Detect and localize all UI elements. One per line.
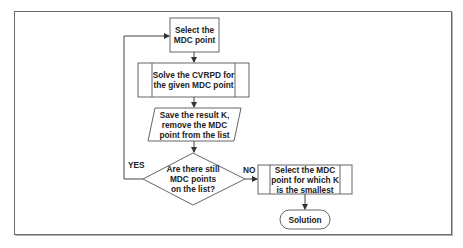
no-edge-label: NO — [243, 165, 255, 175]
yes-edge-label: YES — [128, 160, 145, 170]
decision-label: Are there still MDC points on the list? — [158, 162, 228, 196]
select-mdc-label: Select the MDC point — [170, 18, 219, 52]
select-smallest-label: Select the MDC point for which K is the … — [270, 165, 340, 194]
solution-label: Solution — [280, 210, 330, 229]
solve-cvrpd-label: Solve the CVRPD for the given MDC point — [152, 63, 235, 97]
save-result-label: Save the result K, remove the MDC point … — [150, 108, 239, 141]
